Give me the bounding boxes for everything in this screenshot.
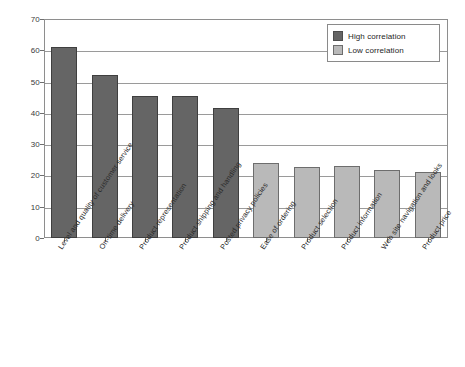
legend-item-low-correlation: Low correlation [333,43,434,57]
bar [172,96,198,238]
legend-label-high-correlation: High correlation [348,32,406,41]
y-axis-tick-label: 20 [10,171,40,180]
bar [51,47,77,238]
y-axis-tick-label: 30 [10,140,40,149]
y-axis-tick-label: 0 [10,234,40,243]
bar-chart: 010203040506070 Level and quality of cus… [0,0,465,367]
legend-swatch-high-correlation-icon [333,31,343,41]
y-axis-tick-label: 40 [10,108,40,117]
legend-label-low-correlation: Low correlation [348,46,404,55]
y-axis-tick-mark [40,238,44,239]
y-axis-tick-label: 70 [10,15,40,24]
y-axis-tick-label: 50 [10,77,40,86]
y-axis-tick-label: 60 [10,46,40,55]
legend-swatch-low-correlation-icon [333,45,343,55]
legend-item-high-correlation: High correlation [333,29,434,43]
bar [92,75,118,238]
bar [132,96,158,238]
legend: High correlation Low correlation [327,24,440,62]
y-axis-tick-label: 10 [10,202,40,211]
